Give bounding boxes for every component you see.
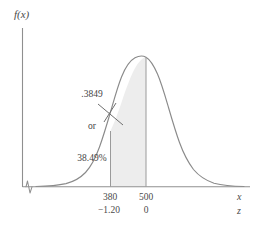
area-annotation-line-1: .3849 xyxy=(62,89,122,100)
area-annotation: .3849 or 38.49% xyxy=(62,68,122,185)
x-tick-label-500: 500 xyxy=(126,192,166,203)
z-axis-letter-label: z xyxy=(237,205,241,216)
area-annotation-line-3: 38.49% xyxy=(62,153,122,164)
z-tick-label-neg-1-20: −1.20 xyxy=(89,205,129,216)
z-tick-label-0: 0 xyxy=(126,205,166,216)
x-axis-letter-label: x xyxy=(237,191,241,202)
normal-distribution-figure: f(x) .3849 or 38.49% 380 500 −1.20 0 x z xyxy=(0,0,258,227)
y-axis-label: f(x) xyxy=(14,8,29,20)
area-annotation-line-2: or xyxy=(62,121,122,132)
x-tick-label-380: 380 xyxy=(90,192,130,203)
